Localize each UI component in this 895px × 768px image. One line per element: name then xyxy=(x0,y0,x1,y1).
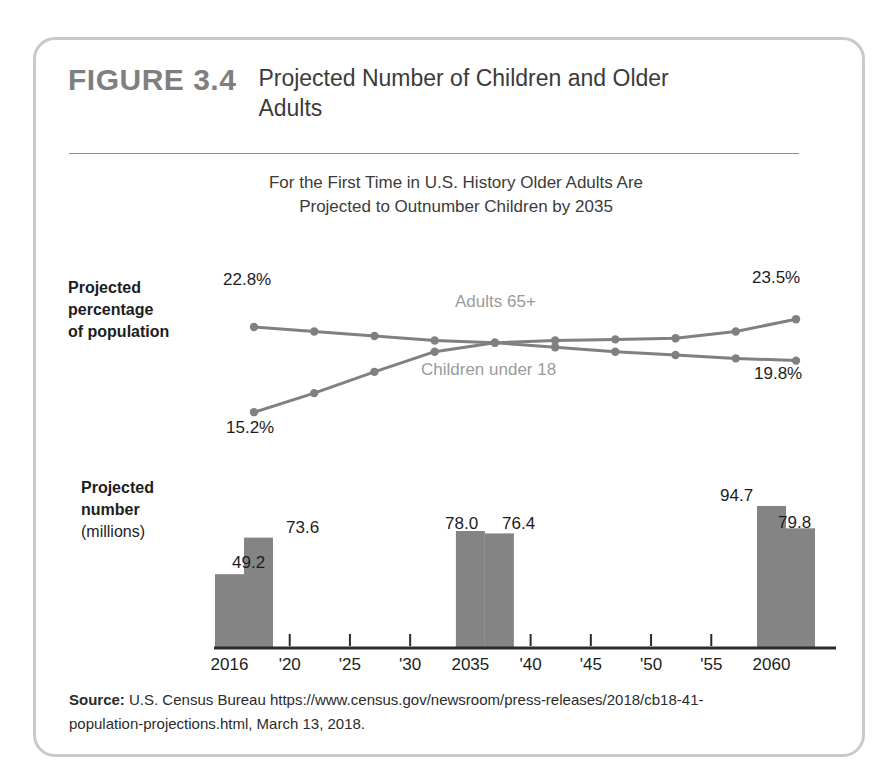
percent-axis-label-line2: percentage xyxy=(68,299,218,321)
line-marker xyxy=(551,336,559,344)
number-axis-label-line2: number xyxy=(81,499,231,521)
percent-axis-label-line3: of population xyxy=(68,321,218,343)
header-divider xyxy=(69,153,799,154)
axis-tick-label-2060: 2060 xyxy=(732,655,812,675)
source-text: U.S. Census Bureau https://www.census.go… xyxy=(69,691,703,732)
value-label-children-start: 22.8% xyxy=(223,270,271,290)
value-label-adults-start: 15.2% xyxy=(226,418,274,438)
bar-value-2016-left: 49.2 xyxy=(232,553,265,573)
line-marker xyxy=(611,347,619,355)
figure-title: Projected Number of Children and Older A… xyxy=(258,63,718,123)
bar-2060-right xyxy=(786,528,815,648)
line-marker xyxy=(491,339,499,347)
source-note: Source: U.S. Census Bureau https://www.c… xyxy=(69,688,769,736)
bar-value-2016-right: 73.6 xyxy=(286,518,319,538)
bar-value-2035-right: 76.4 xyxy=(502,514,535,534)
line-marker xyxy=(250,323,258,331)
line-marker xyxy=(491,339,499,347)
line-marker xyxy=(671,351,679,359)
figure-header: FIGURE 3.4 Projected Number of Children … xyxy=(68,63,828,143)
line-marker xyxy=(310,389,318,397)
bar-value-2060-right: 79.8 xyxy=(778,513,811,533)
percent-axis-label: Projected percentage of population xyxy=(68,277,218,343)
line-marker xyxy=(370,368,378,376)
bar-2016-left xyxy=(215,574,244,648)
line-marker xyxy=(370,332,378,340)
bar-2035-right xyxy=(485,533,514,648)
series-label-children: Children under 18 xyxy=(421,360,556,380)
bar-value-2060-left: 94.7 xyxy=(720,486,753,506)
source-label: Source: xyxy=(69,691,125,708)
figure-number: FIGURE 3.4 xyxy=(68,63,236,97)
line-series-children xyxy=(254,327,796,361)
line-marker xyxy=(671,334,679,342)
bar-value-2035-left: 78.0 xyxy=(445,514,478,534)
line-marker xyxy=(732,327,740,335)
line-marker xyxy=(792,315,800,323)
line-markers-children xyxy=(250,323,800,365)
line-marker xyxy=(551,343,559,351)
number-axis-label-line3: (millions) xyxy=(81,521,231,543)
chart-subtitle-line2: Projected to Outnumber Children by 2035 xyxy=(126,195,786,219)
line-marker xyxy=(430,347,438,355)
percent-axis-label-line1: Projected xyxy=(68,277,218,299)
chart-subtitle-line1: For the First Time in U.S. History Older… xyxy=(126,171,786,195)
line-marker xyxy=(732,354,740,362)
line-marker xyxy=(250,408,258,416)
line-marker xyxy=(611,335,619,343)
bar-2035-left xyxy=(456,531,485,648)
number-axis-label-line1: Projected xyxy=(81,477,231,499)
series-label-adults: Adults 65+ xyxy=(455,292,536,312)
value-label-adults-end: 23.5% xyxy=(752,268,800,288)
value-label-children-end: 19.8% xyxy=(754,364,802,384)
chart-plot-svg xyxy=(36,40,868,760)
line-marker xyxy=(310,327,318,335)
chart-subtitle: For the First Time in U.S. History Older… xyxy=(126,171,786,219)
line-marker xyxy=(430,336,438,344)
bar-axis-ticks xyxy=(290,634,712,646)
number-axis-label: Projected number (millions) xyxy=(81,477,231,543)
figure-card: FIGURE 3.4 Projected Number of Children … xyxy=(33,37,865,757)
